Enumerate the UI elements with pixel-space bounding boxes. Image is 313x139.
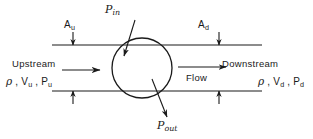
upstream-props-separator-2: , <box>32 76 41 87</box>
downstream-props-separator-2: , <box>284 76 293 87</box>
area-upstream-label: Au <box>64 20 75 31</box>
downstream-pressure-subscript: d <box>300 80 304 89</box>
upstream-pressure-symbol: P <box>41 76 48 87</box>
downstream-properties-label: ρ , Vd , Pd <box>258 76 304 88</box>
downstream-label: Downstream <box>222 59 278 69</box>
area-downstream-symbol: A <box>198 19 205 30</box>
downstream-pressure-symbol: P <box>293 76 300 87</box>
power-out-arrow <box>152 79 167 117</box>
downstream-props-separator-1: , <box>264 76 273 87</box>
device-circle <box>112 38 172 98</box>
area-upstream-symbol: A <box>64 19 71 30</box>
power-out-subscript: out <box>164 124 177 133</box>
upstream-properties-label: ρ , Vu , Pu <box>6 76 52 88</box>
power-in-arrow <box>124 20 135 56</box>
area-downstream-label: Ad <box>198 20 209 31</box>
power-in-subscript: in <box>112 8 120 17</box>
upstream-label: Upstream <box>12 59 56 69</box>
power-out-label: Pout <box>157 120 177 133</box>
power-in-label: Pin <box>105 4 120 17</box>
flow-device-diagram: Au Ad Pin Pout Upstream Downstream ρ , V… <box>0 0 313 139</box>
upstream-pressure-subscript: u <box>48 80 52 89</box>
area-upstream-subscript: u <box>71 23 75 32</box>
flow-label: Flow <box>186 73 207 83</box>
area-downstream-subscript: d <box>205 23 209 32</box>
upstream-props-separator-1: , <box>12 76 21 87</box>
